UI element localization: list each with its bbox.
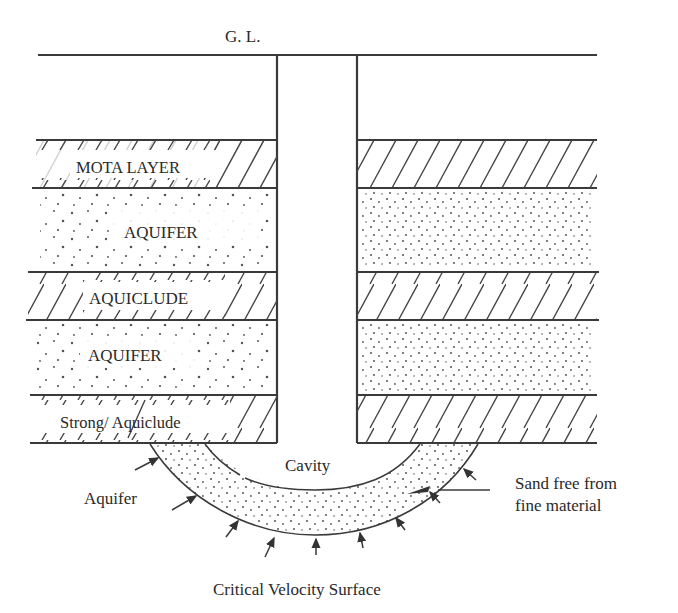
aquifer-bottom-label: Aquifer <box>84 489 137 508</box>
critical-velocity-surface-label: Critical Velocity Surface <box>213 580 381 599</box>
sand-label-line2: fine material <box>515 496 602 515</box>
strong-aquiclude-label: Strong/ Aquiclude <box>60 413 181 432</box>
aquiclude-label: AQUICLUDE <box>89 289 188 308</box>
upper-aquifer-label: AQUIFER <box>124 223 198 242</box>
ground-level-label: G. L. <box>225 27 260 46</box>
sand-label-line1: Sand free from <box>515 474 617 493</box>
mota-layer-label: MOTA LAYER <box>76 158 180 177</box>
lower-aquifer-label: AQUIFER <box>88 346 162 365</box>
cavity-well-diagram: G. L. MOTA LAYER AQUIFER AQUICLUDE <box>0 0 678 613</box>
cavity-label: Cavity <box>285 456 331 475</box>
